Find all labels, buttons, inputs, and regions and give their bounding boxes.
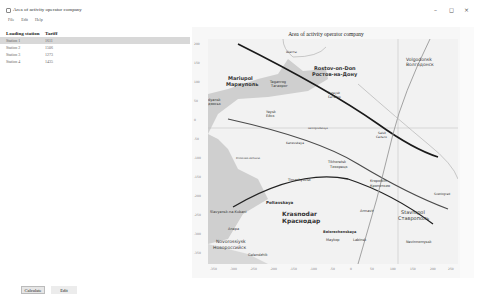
svg-text:Timashyovsk: Timashyovsk — [287, 178, 312, 182]
svg-text:Svetlograd: Svetlograd — [434, 192, 450, 196]
header-tariff[interactable]: Tariff — [45, 29, 190, 37]
svg-text:Novorossiysk: Novorossiysk — [216, 239, 246, 244]
svg-text:Krasnodar: Krasnodar — [282, 210, 317, 217]
x-tick: -250 — [250, 267, 257, 271]
x-tick: -200 — [270, 267, 277, 271]
svg-text:Armavir: Armavir — [360, 209, 374, 213]
x-tick: -100 — [310, 267, 317, 271]
svg-text:Ейск: Ейск — [266, 114, 275, 118]
menu-file[interactable]: File — [8, 17, 14, 22]
tariff-cell: 1273 — [45, 51, 190, 58]
tariff-cell: 1506 — [45, 44, 190, 51]
minimize-button[interactable]: – — [434, 7, 437, 13]
y-tick: 0 — [194, 118, 196, 122]
x-tick: 0 — [350, 267, 352, 271]
y-tick: -200 — [194, 194, 201, 198]
table-row[interactable]: Station 1 1611 — [0, 37, 190, 44]
svg-text:Gelendzhik: Gelendzhik — [248, 253, 268, 257]
station-cell: Station 4 — [0, 58, 45, 65]
svg-text:Belorechenskaya: Belorechenskaya — [323, 230, 357, 234]
svg-text:Тихорецк: Тихорецк — [329, 165, 348, 169]
svg-text:Nevinnomyssk: Nevinnomyssk — [406, 240, 433, 244]
svg-text:Tikhoretsk: Tikhoretsk — [327, 160, 347, 164]
station-cell: Station 3 — [0, 51, 45, 58]
svg-text:Poltavskaya: Poltavskaya — [266, 200, 293, 205]
svg-text:Краснодар: Краснодар — [282, 217, 321, 225]
y-tick: -350 — [194, 251, 201, 255]
svg-text:Таганрог: Таганрог — [270, 84, 288, 88]
station-cell: Station 1 — [0, 37, 45, 44]
svg-text:Сальск: Сальск — [376, 135, 387, 139]
stations-panel: Loading station Tariff Station 1 1611 St… — [0, 29, 190, 277]
svg-text:Мариуполь: Мариуполь — [226, 81, 258, 88]
svg-text:Ставрополь: Ставрополь — [398, 215, 429, 222]
svg-text:Волгодонск: Волгодонск — [406, 62, 434, 67]
svg-text:Primorsko-Akhtarsk: Primorsko-Akhtarsk — [236, 157, 261, 160]
y-tick: -100 — [194, 156, 201, 160]
x-tick: 150 — [410, 267, 416, 271]
svg-text:Новороссийск: Новороссийск — [213, 245, 246, 250]
right-scrollbar[interactable] — [460, 27, 474, 278]
svg-text:Leningradskaya: Leningradskaya — [308, 127, 328, 130]
svg-text:Ростов-на-Дону: Ростов-на-Дону — [312, 71, 358, 78]
title-bar: Area of activity operator company – ◻ × — [0, 0, 478, 20]
svg-text:дянськ: дянськ — [208, 102, 221, 106]
y-tick: -50 — [194, 137, 199, 141]
y-tick: -250 — [194, 213, 201, 217]
tariff-cell: 1435 — [45, 58, 190, 65]
x-tick: 200 — [430, 267, 436, 271]
svg-text:Kropotkin: Kropotkin — [370, 179, 387, 183]
y-tick: -300 — [194, 232, 201, 236]
map-area[interactable]: Шахты Volgodonsk Волгодонск Rostov-on-Do… — [208, 39, 458, 264]
y-tick: 100 — [194, 80, 200, 84]
stations-table: Loading station Tariff Station 1 1611 St… — [0, 29, 190, 65]
menu-bar: File Edit Help — [8, 17, 43, 22]
window-title: Area of activity operator company — [13, 7, 82, 12]
maximize-button[interactable]: ◻ — [449, 7, 454, 13]
tariff-cell: 1611 — [45, 37, 190, 44]
svg-text:Anapa: Anapa — [228, 227, 239, 231]
svg-text:Kanevskaya: Kanevskaya — [286, 141, 304, 145]
svg-text:Кропоткин: Кропоткин — [370, 184, 390, 188]
app-icon — [6, 8, 11, 13]
edit-button[interactable]: Edit — [51, 286, 77, 294]
x-tick: -350 — [210, 267, 217, 271]
action-bar: Calculate Edit — [0, 277, 190, 306]
svg-text:Батайск: Батайск — [328, 95, 341, 99]
header-loading-station[interactable]: Loading station — [0, 29, 45, 37]
x-tick: -50 — [330, 267, 335, 271]
y-tick: -150 — [194, 175, 201, 179]
svg-text:Slavyansk-na-Kubani: Slavyansk-na-Kubani — [210, 210, 247, 214]
menu-help[interactable]: Help — [35, 17, 43, 22]
x-tick: 250 — [448, 267, 454, 271]
x-tick: -300 — [230, 267, 237, 271]
x-tick: -150 — [290, 267, 297, 271]
station-cell: Station 2 — [0, 44, 45, 51]
plot-title: Area of activity operator company — [192, 31, 460, 37]
calculate-button[interactable]: Calculate — [21, 286, 45, 294]
close-button[interactable]: × — [464, 7, 469, 13]
table-row[interactable]: Station 3 1273 — [0, 51, 190, 58]
y-tick: 150 — [194, 61, 200, 65]
svg-text:Шахты: Шахты — [286, 50, 298, 54]
y-tick: 200 — [194, 42, 200, 46]
x-tick: 50 — [370, 267, 374, 271]
svg-text:Maykop: Maykop — [326, 238, 340, 242]
y-tick: 50 — [194, 99, 198, 103]
x-tick: 100 — [390, 267, 396, 271]
table-row[interactable]: Station 4 1435 — [0, 58, 190, 65]
table-row[interactable]: Station 2 1506 — [0, 44, 190, 51]
map-plot: Area of activity operator company 200 15… — [192, 27, 460, 278]
menu-edit[interactable]: Edit — [21, 17, 28, 22]
map-svg: Шахты Volgodonsk Волгодонск Rostov-on-Do… — [208, 39, 458, 264]
svg-text:Labinsk: Labinsk — [353, 238, 367, 242]
